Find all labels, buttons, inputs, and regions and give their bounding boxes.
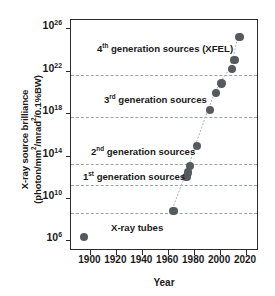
y-tick-label: 1026	[43, 19, 62, 31]
y-axis-title-line1: X-ray source brilliance	[19, 90, 30, 190]
ordinal-sup-nd: nd	[96, 145, 104, 152]
y-axis-sup-1: 2	[30, 146, 37, 149]
plot-area: 4th generation sources (XFEL) 3rd genera…	[70, 19, 258, 250]
chart-figure: X-ray source brilliance (photon/mm2/mrad…	[0, 0, 275, 296]
y-tick-label: 1010	[43, 189, 62, 201]
y-tick-label: 106	[46, 231, 62, 243]
data-point	[217, 79, 225, 87]
annotation-gen1: 1st generation sources	[83, 171, 185, 182]
annotation-gen4: 4th generation sources (XFEL)	[97, 43, 233, 54]
y-tick-label: 1022	[43, 62, 62, 74]
y-axis-title: X-ray source brilliance (photon/mm2/mrad…	[19, 30, 44, 250]
data-point	[169, 207, 177, 215]
y-axis-sup-2: 2	[30, 118, 37, 121]
annotation-xray-tubes: X-ray tubes	[111, 222, 163, 233]
data-point	[235, 33, 243, 41]
data-point	[230, 56, 238, 64]
annotation-gen2: 2nd generation sources	[91, 146, 195, 157]
x-tick-label: 2020	[225, 254, 265, 265]
annotation-gen3: 3rd generation sources	[104, 94, 207, 105]
data-point	[228, 65, 236, 73]
x-axis-title: Year	[70, 277, 258, 288]
y-tick-label: 1014	[43, 147, 62, 159]
y-tick-label: 1018	[43, 104, 62, 116]
trend-line	[71, 20, 257, 249]
